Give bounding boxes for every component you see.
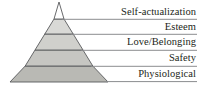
tier-label-safety: Safety	[169, 52, 196, 63]
tier-label-self-actualization: Self-actualization	[121, 6, 196, 17]
maslow-pyramid-figure: Self-actualization Esteem Love/Belonging…	[0, 0, 198, 87]
tier-label-esteem: Esteem	[165, 21, 196, 32]
tier-label-layer: Self-actualization Esteem Love/Belonging…	[0, 0, 198, 87]
tier-label-love-belonging: Love/Belonging	[127, 36, 196, 47]
tier-label-physiological: Physiological	[138, 68, 196, 79]
